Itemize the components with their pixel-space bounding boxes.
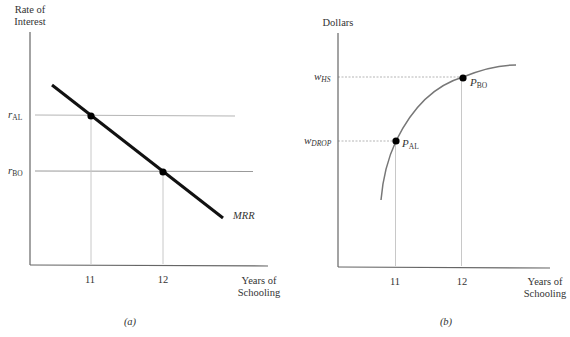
figure: Rate of Interest rAL rBO MRR 11 12 Years…	[0, 0, 570, 337]
panel-b-x-tick-12: 12	[457, 276, 468, 287]
panel-a: Rate of Interest rAL rBO MRR 11 12 Years…	[8, 4, 281, 328]
panel-a-x-axis	[30, 265, 268, 266]
p-al-point	[392, 137, 399, 144]
p-bo-label: PBO	[469, 76, 488, 90]
w-drop-label: wDROP	[304, 134, 332, 148]
panel-a-y-axis-label-line1: Rate of	[15, 4, 46, 15]
panel-b-x-axis-label-line2: Schooling	[524, 288, 567, 299]
panel-a-x-axis-label-line1: Years of	[242, 275, 277, 286]
r-al-guide-line	[35, 115, 235, 116]
point-bo	[159, 168, 166, 175]
earnings-curve	[381, 65, 516, 200]
r-al-label: rAL	[8, 108, 23, 122]
w-hs-label: wHS	[314, 70, 331, 84]
panel-a-x-tick-11: 11	[85, 274, 95, 285]
mrr-curve	[52, 85, 223, 218]
panel-b-y-axis-label: Dollars	[323, 17, 354, 28]
r-bo-guide-line	[35, 171, 253, 172]
panel-b-x-tick-11: 11	[390, 276, 400, 287]
panel-a-y-axis-label-line2: Interest	[14, 16, 46, 27]
panel-b: Dollars wHS wDROP PAL PBO 11 12 Years of…	[304, 17, 567, 328]
p-al-label: PAL	[401, 137, 419, 151]
panel-a-x-tick-12: 12	[158, 274, 169, 285]
panel-b-caption: (b)	[440, 316, 453, 328]
point-al	[87, 112, 94, 119]
r-bo-label: rBO	[8, 164, 23, 178]
p-bo-point	[459, 74, 466, 81]
panel-a-x-axis-label-line2: Schooling	[238, 287, 281, 298]
panel-a-caption: (a)	[124, 316, 137, 328]
mrr-label: MRR	[232, 210, 255, 221]
panel-b-x-axis-label-line1: Years of	[528, 276, 563, 287]
panel-b-x-axis	[338, 267, 550, 268]
